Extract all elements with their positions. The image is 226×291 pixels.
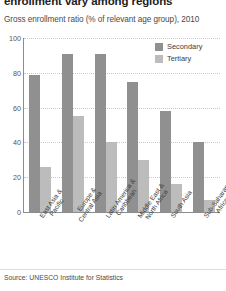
x-axis-label-slot: East Asia &Pacific xyxy=(24,213,57,271)
x-axis-label-slot: Sub-SaharanAfrica xyxy=(187,213,220,271)
x-axis-label-slot: Europe &Central Asia xyxy=(57,213,90,271)
chart-legend: SecondaryTertiary xyxy=(155,41,223,65)
legend-label: Tertiary xyxy=(167,54,191,63)
chart-title: enrollment vary among regions xyxy=(4,0,224,8)
bar-group xyxy=(57,38,90,212)
y-axis-tick-label: 20 xyxy=(1,173,21,182)
chart-figure: enrollment vary among regions Gross enro… xyxy=(0,0,226,291)
y-axis-tick-label: 100 xyxy=(1,34,21,43)
bar-secondary xyxy=(62,54,73,212)
footer-divider xyxy=(0,269,226,270)
legend-label: Secondary xyxy=(167,42,202,51)
x-axis-labels: East Asia &PacificEurope &Central AsiaLa… xyxy=(24,213,220,271)
y-axis-tick-label: 60 xyxy=(1,103,21,112)
legend-swatch-icon xyxy=(155,55,163,63)
y-axis-tick-label: 80 xyxy=(1,68,21,77)
bar-group xyxy=(24,38,57,212)
legend-item[interactable]: Secondary xyxy=(155,41,223,52)
legend-item[interactable]: Tertiary xyxy=(155,53,223,64)
y-axis-ticks: 020406080100 xyxy=(0,38,21,212)
x-axis-label-slot: Latin America &Caribbean xyxy=(89,213,122,271)
bar-secondary xyxy=(193,142,204,212)
legend-swatch-icon xyxy=(155,43,163,51)
y-axis-tick-label: 0 xyxy=(1,208,21,217)
y-axis-tick-label: 40 xyxy=(1,138,21,147)
x-axis-label-slot: South Asia xyxy=(155,213,188,271)
bar-group xyxy=(89,38,122,212)
bar-secondary xyxy=(29,75,40,212)
source-note: Source: UNESCO Institute for Statistics xyxy=(4,274,123,281)
chart-subtitle: Gross enrollment ratio (% of relevant ag… xyxy=(4,15,199,24)
x-axis-label-slot: Middle East &North Africa xyxy=(122,213,155,271)
